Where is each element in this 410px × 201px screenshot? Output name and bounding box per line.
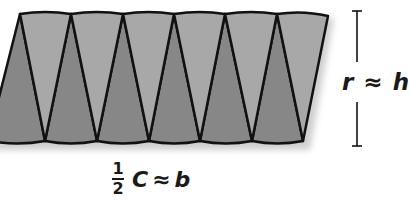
fraction-denominator: 2: [112, 182, 123, 196]
radius-var: r: [342, 69, 354, 95]
circumference-var: C: [132, 167, 148, 192]
base-label: 1 2 C ≈ b: [112, 162, 190, 196]
height-var: h: [393, 69, 410, 95]
one-half-fraction: 1 2: [112, 162, 124, 196]
base-var: b: [175, 167, 191, 192]
height-label: r ≈ h: [342, 69, 410, 95]
approx-symbol: ≈: [152, 167, 170, 192]
fraction-numerator: 1: [112, 162, 123, 176]
approx-symbol: ≈: [363, 69, 383, 95]
